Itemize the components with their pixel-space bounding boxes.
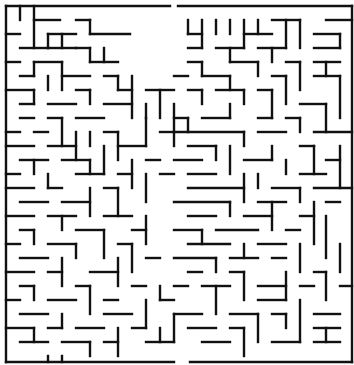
maze-grid: [0, 0, 354, 365]
